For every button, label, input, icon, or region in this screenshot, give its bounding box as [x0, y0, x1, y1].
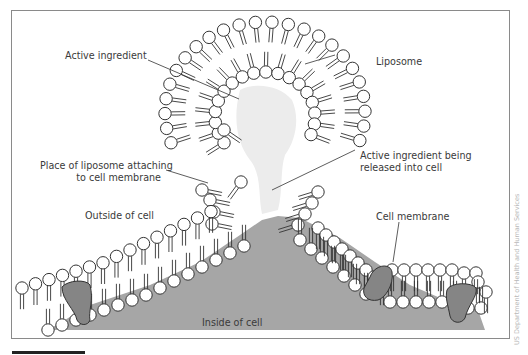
phospholipid-head — [182, 268, 194, 280]
phospholipid-head — [446, 264, 458, 276]
phospholipid-head — [397, 296, 409, 308]
phospholipid-head — [204, 194, 216, 206]
membrane-protein-left — [62, 281, 91, 324]
phospholipid-head — [423, 296, 435, 308]
leader-cell-membrane — [393, 222, 399, 262]
label-active-ingredient: Active ingredient — [65, 50, 147, 61]
phospholipid-head — [238, 240, 250, 252]
phospholipid-head — [112, 299, 124, 311]
image-credit: US Department of Health and Human Servic… — [513, 194, 521, 345]
phospholipid-head — [327, 261, 339, 273]
leader-attaching — [166, 170, 208, 183]
phospholipid-head — [480, 286, 492, 298]
phospholipid-head — [154, 282, 166, 294]
phospholipid-head — [358, 120, 370, 132]
phospholipid-head — [110, 250, 122, 262]
phospholipid-head — [97, 257, 109, 269]
label-liposome: Liposome — [376, 56, 422, 67]
phospholipid-head — [359, 105, 371, 117]
phospholipid-head — [422, 264, 434, 276]
phospholipid-head — [29, 278, 41, 290]
phospholipid-head — [353, 76, 365, 88]
phospholipid-head — [165, 137, 177, 149]
phospholipid-head — [56, 269, 68, 281]
phospholipid-head — [151, 231, 163, 243]
phospholipid-head — [249, 16, 261, 28]
phospholipid-head — [137, 237, 149, 249]
phospholipid-head — [298, 23, 310, 35]
phospholipid-head — [260, 66, 272, 78]
phospholipid-head — [337, 50, 349, 62]
label-cell-membrane: Cell membrane — [376, 211, 449, 222]
phospholipid-head — [160, 92, 172, 104]
phospholipid-head — [236, 71, 248, 83]
phospholipid-head — [43, 273, 55, 285]
phospholipid-head — [16, 282, 28, 294]
phospholipid-head — [98, 304, 110, 316]
phospholipid-head — [164, 225, 176, 237]
phospholipid-head — [294, 234, 306, 246]
phospholipid-head — [124, 244, 136, 256]
phospholipid-head — [316, 252, 328, 264]
phospholipid-head — [83, 261, 95, 273]
phospholipid-head — [299, 208, 311, 220]
phospholipid-head — [205, 205, 217, 217]
phospholipid-head — [203, 31, 215, 43]
phospholipid-head — [233, 19, 245, 31]
phospholipid-head — [210, 254, 222, 266]
phospholipid-head — [70, 265, 82, 277]
phospholipid-head — [248, 67, 260, 79]
label-attaching-line1: Place of liposome attaching — [40, 160, 161, 171]
phospholipid-head — [196, 184, 208, 196]
phospholipid-head — [306, 197, 318, 209]
phospholipid-head — [458, 267, 470, 279]
phospholipid-head — [159, 107, 171, 119]
phospholipid-head — [357, 90, 369, 102]
phospholipid-head — [312, 186, 324, 198]
phospholipid-head — [305, 128, 317, 140]
label-outside-of-cell: Outside of cell — [85, 210, 154, 221]
phospholipid-head — [218, 124, 230, 136]
phospholipid-head — [384, 296, 396, 308]
phospholipid-head — [410, 264, 422, 276]
phospholipid-head — [272, 67, 284, 79]
phospholipid-head — [178, 218, 190, 230]
phospholipid-head — [235, 176, 247, 188]
label-released-line2: released into cell — [360, 162, 442, 173]
phospholipid-head — [140, 289, 152, 301]
active-ingredient-blob — [236, 86, 296, 214]
phospholipid-head — [326, 39, 338, 51]
phospholipid-head — [190, 41, 202, 53]
caption-bar — [12, 351, 85, 354]
phospholipid-head — [217, 24, 229, 36]
phospholipid-head — [398, 264, 410, 276]
label-released-line1: Active ingredient being — [360, 150, 472, 161]
phospholipid-head — [168, 275, 180, 287]
phospholipid-head — [126, 294, 138, 306]
phospholipid-head — [196, 261, 208, 273]
phospholipid-head — [354, 134, 366, 146]
phospholipid-head — [305, 243, 317, 255]
phospholipid-head — [42, 324, 54, 336]
phospholipid-head — [206, 218, 218, 230]
phospholipid-head — [410, 296, 422, 308]
phospholipid-head — [164, 78, 176, 90]
phospholipid-head — [160, 122, 172, 134]
phospholipid-head — [56, 319, 68, 331]
phospholipid-head — [266, 16, 278, 28]
phospholipid-head — [224, 247, 236, 259]
phospholipid-head — [313, 30, 325, 42]
label-inside-of-cell: Inside of cell — [202, 317, 262, 328]
phospholipid-head — [475, 302, 487, 314]
label-attaching-line2: to cell membrane — [40, 172, 161, 183]
phospholipid-head — [191, 212, 203, 224]
phospholipid-head — [179, 52, 191, 64]
phospholipid-head — [346, 62, 358, 74]
phospholipid-head — [282, 18, 294, 30]
phospholipid-head — [434, 264, 446, 276]
